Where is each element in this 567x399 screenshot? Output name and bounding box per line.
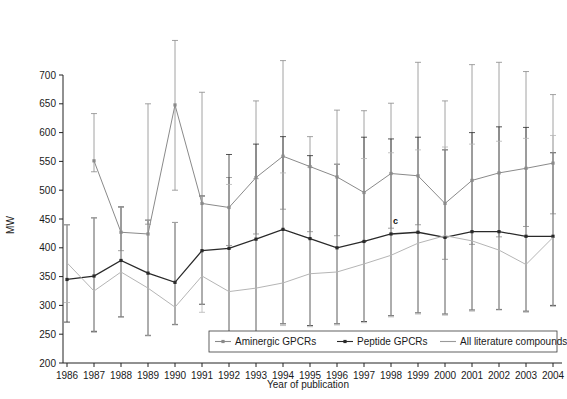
- x-axis-tick-label: 1997: [353, 370, 376, 381]
- data-point: [173, 281, 176, 284]
- y-axis-tick-label: 350: [39, 271, 56, 282]
- x-axis-tick-label: 2001: [461, 370, 484, 381]
- data-point: [389, 172, 392, 175]
- legend-item-all-literature-compounds[interactable]: All literature compounds: [440, 336, 567, 347]
- data-point: [551, 235, 554, 238]
- x-axis-tick-label: 2000: [434, 370, 457, 381]
- y-axis-tick-label: 450: [39, 214, 56, 225]
- data-point: [173, 103, 176, 106]
- data-point: [524, 167, 527, 170]
- chart-container: 700650600550500450400350300250200 198619…: [0, 0, 567, 399]
- legend-swatch-marker: [221, 340, 224, 343]
- data-point: [227, 206, 230, 209]
- data-point: [200, 249, 203, 252]
- y-axis-tick-label: 700: [39, 70, 56, 81]
- data-point: [146, 272, 149, 275]
- legend-item-label: Peptide GPCRs: [357, 336, 428, 347]
- x-axis-tick-label: 1986: [56, 370, 79, 381]
- y-axis-tick-label: 250: [39, 329, 56, 340]
- y-axis-tick-label: 650: [39, 98, 56, 109]
- chart-legend: Aminergic GPCRsPeptide GPCRsAll literatu…: [209, 331, 567, 352]
- data-point: [335, 175, 338, 178]
- data-point: [335, 246, 338, 249]
- data-point: [443, 202, 446, 205]
- data-point: [470, 230, 473, 233]
- data-point: [416, 231, 419, 234]
- data-point: [308, 165, 311, 168]
- y-axis-tick-label: 600: [39, 127, 56, 138]
- data-point: [362, 240, 365, 243]
- data-point: [470, 179, 473, 182]
- x-axis-tick-label: 1988: [110, 370, 133, 381]
- data-point: [254, 238, 257, 241]
- data-point: [146, 232, 149, 235]
- mw-vs-year-line-chart: 700650600550500450400350300250200 198619…: [0, 0, 567, 399]
- data-point: [389, 232, 392, 235]
- x-axis-tick-label: 1999: [407, 370, 430, 381]
- legend-swatch-marker: [343, 340, 346, 343]
- x-axis-tick-label: 1993: [245, 370, 268, 381]
- x-axis-tick-label: 2004: [542, 370, 565, 381]
- data-point: [281, 155, 284, 158]
- y-axis-tick-label: 400: [39, 242, 56, 253]
- data-point: [416, 174, 419, 177]
- data-point: [227, 247, 230, 250]
- data-point: [92, 274, 95, 277]
- y-axis-tick-label: 550: [39, 156, 56, 167]
- x-axis-tick-label: 2002: [488, 370, 511, 381]
- y-axis-tick-label: 300: [39, 300, 56, 311]
- y-axis-title: MW: [5, 216, 16, 234]
- y-axis-tick-label: 500: [39, 185, 56, 196]
- data-point: [65, 278, 68, 281]
- chart-annotation: c: [393, 216, 398, 226]
- data-point: [119, 259, 122, 262]
- data-point: [92, 159, 95, 162]
- x-axis-tick-label: 2003: [515, 370, 538, 381]
- data-point: [524, 235, 527, 238]
- x-axis-tick-label: 1998: [380, 370, 403, 381]
- x-axis-tick-label: 1992: [218, 370, 241, 381]
- x-axis-title: Year of publication: [267, 379, 349, 390]
- legend-item-label: All literature compounds: [460, 336, 567, 347]
- y-axis-tick-label: 200: [39, 358, 56, 369]
- data-point: [254, 176, 257, 179]
- x-axis-tick-label: 1991: [191, 370, 214, 381]
- data-point: [119, 231, 122, 234]
- x-axis-tick-label: 1989: [137, 370, 160, 381]
- x-axis-tick-label: 1987: [83, 370, 106, 381]
- data-point: [497, 171, 500, 174]
- data-point: [281, 228, 284, 231]
- data-point: [551, 162, 554, 165]
- data-point: [308, 237, 311, 240]
- data-point: [362, 191, 365, 194]
- annotations-group: c: [393, 216, 398, 226]
- data-point: [200, 202, 203, 205]
- legend-item-label: Aminergic GPCRs: [235, 336, 316, 347]
- data-point: [497, 230, 500, 233]
- x-axis-tick-label: 1990: [164, 370, 187, 381]
